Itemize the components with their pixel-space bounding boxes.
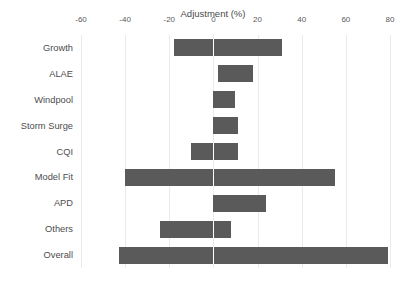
gridline-neg40 bbox=[125, 35, 126, 268]
category-label-others: Others bbox=[45, 224, 73, 234]
gridline-80 bbox=[390, 35, 391, 268]
x-tick-label: 60 bbox=[341, 15, 350, 24]
bar-growth bbox=[174, 39, 282, 56]
bar-model-fit bbox=[125, 169, 335, 186]
zero-divider bbox=[213, 247, 214, 264]
chart-container: Adjustment (%) GrowthALAEWindpoolStorm S… bbox=[0, 0, 407, 282]
bar-others bbox=[160, 221, 231, 238]
bar-cqi bbox=[191, 143, 237, 160]
category-label-windpool: Windpool bbox=[34, 95, 73, 105]
category-label-cqi: CQI bbox=[56, 147, 73, 157]
x-tick-label: 40 bbox=[297, 15, 306, 24]
x-tick-label: -20 bbox=[164, 15, 176, 24]
zero-divider bbox=[213, 143, 214, 160]
category-label-storm-surge: Storm Surge bbox=[21, 121, 73, 131]
bar-storm-surge bbox=[213, 117, 237, 134]
gridline-20 bbox=[258, 35, 259, 268]
bar-overall bbox=[119, 247, 388, 264]
bar-apd bbox=[213, 195, 266, 212]
category-label-overall: Overall bbox=[44, 250, 73, 260]
zero-divider bbox=[213, 221, 214, 238]
x-tick-label: -60 bbox=[75, 15, 87, 24]
gridline-40 bbox=[302, 35, 303, 268]
zero-divider bbox=[213, 169, 214, 186]
gridline-neg60 bbox=[81, 35, 82, 268]
y-axis-category-labels: GrowthALAEWindpoolStorm SurgeCQIModel Fi… bbox=[0, 35, 81, 268]
bar-windpool bbox=[213, 91, 235, 108]
zero-divider bbox=[213, 39, 214, 56]
plot-area: -60-40-20020406080 bbox=[81, 35, 390, 268]
category-label-growth: Growth bbox=[43, 43, 73, 53]
bar-alae bbox=[218, 65, 253, 82]
x-tick-label: 20 bbox=[253, 15, 262, 24]
x-tick-label: 0 bbox=[211, 15, 215, 24]
gridline-60 bbox=[346, 35, 347, 268]
category-label-apd: APD bbox=[54, 198, 73, 208]
x-tick-label: -40 bbox=[119, 15, 131, 24]
category-label-model-fit: Model Fit bbox=[35, 172, 73, 182]
x-tick-label: 80 bbox=[386, 15, 395, 24]
category-label-alae: ALAE bbox=[49, 69, 73, 79]
